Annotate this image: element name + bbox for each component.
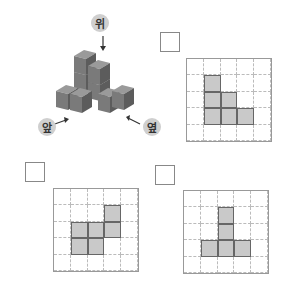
grid-cell xyxy=(71,205,88,221)
filled-cell xyxy=(88,238,105,254)
filled-cell xyxy=(237,108,254,124)
grid-cell xyxy=(254,108,271,124)
filled-cell xyxy=(218,207,235,223)
grid-cell xyxy=(234,207,251,223)
grid-cell xyxy=(237,125,254,141)
grid-cell xyxy=(104,238,121,254)
grid-cell xyxy=(187,75,204,91)
grid-cell xyxy=(187,125,204,141)
grid-cell xyxy=(88,205,105,221)
grid-cell xyxy=(184,224,201,240)
grid-cell xyxy=(201,207,218,223)
side-view-label: 옆 xyxy=(143,118,161,136)
grid-cell xyxy=(184,240,201,256)
filled-cell xyxy=(71,238,88,254)
grid-cell xyxy=(204,59,221,75)
grid-bottom-left xyxy=(53,188,139,272)
grid-cell xyxy=(187,92,204,108)
filled-cell xyxy=(221,92,238,108)
filled-cell xyxy=(218,224,235,240)
grid-cell xyxy=(187,108,204,124)
grid-cell xyxy=(184,191,201,207)
grid-cell xyxy=(104,189,121,205)
grid-cell xyxy=(88,255,105,271)
grid-cell xyxy=(254,125,271,141)
grid-cell xyxy=(54,189,71,205)
top-view-label: 위 xyxy=(91,14,109,32)
grid-cell xyxy=(221,59,238,75)
grid-cell xyxy=(218,257,235,273)
grid-cell xyxy=(254,75,271,91)
grid-cell xyxy=(54,255,71,271)
grid-cell xyxy=(121,189,138,205)
grid-bottom-right xyxy=(183,190,269,274)
grid-cell xyxy=(254,59,271,75)
grid-cell xyxy=(88,189,105,205)
grid-cell xyxy=(121,205,138,221)
grid-cell xyxy=(201,224,218,240)
grid-cell xyxy=(237,59,254,75)
grid-cell xyxy=(251,257,268,273)
grid-cell xyxy=(184,207,201,223)
grid-cell xyxy=(251,207,268,223)
filled-cell xyxy=(204,75,221,91)
front-view-label: 앞 xyxy=(38,118,56,136)
filled-cell xyxy=(204,108,221,124)
answer-box-bottom-left[interactable] xyxy=(25,162,45,182)
grid-cell xyxy=(237,75,254,91)
grid-cell xyxy=(54,238,71,254)
filled-cell xyxy=(104,222,121,238)
filled-cell xyxy=(218,240,235,256)
filled-cell xyxy=(104,205,121,221)
grid-cell xyxy=(54,222,71,238)
filled-cell xyxy=(221,108,238,124)
grid-cell xyxy=(201,257,218,273)
grid-cell xyxy=(54,205,71,221)
filled-cell xyxy=(201,240,218,256)
grid-cell xyxy=(121,222,138,238)
grid-cell xyxy=(121,238,138,254)
grid-cell xyxy=(221,125,238,141)
grid-cell xyxy=(234,224,251,240)
grid-cell xyxy=(237,92,254,108)
filled-cell xyxy=(234,240,251,256)
filled-cell xyxy=(204,92,221,108)
grid-cell xyxy=(234,191,251,207)
grid-cell xyxy=(187,59,204,75)
grid-cell xyxy=(218,191,235,207)
answer-box-top-right[interactable] xyxy=(160,32,180,52)
grid-cell xyxy=(234,257,251,273)
grid-cell xyxy=(251,240,268,256)
grid-cell xyxy=(121,255,138,271)
grid-cell xyxy=(71,189,88,205)
grid-cell xyxy=(71,255,88,271)
filled-cell xyxy=(88,222,105,238)
grid-top-right xyxy=(186,58,272,142)
grid-cell xyxy=(104,255,121,271)
grid-cell xyxy=(251,224,268,240)
grid-cell xyxy=(251,191,268,207)
grid-cell xyxy=(204,125,221,141)
grid-cell xyxy=(221,75,238,91)
grid-cell xyxy=(184,257,201,273)
filled-cell xyxy=(71,222,88,238)
grid-cell xyxy=(201,191,218,207)
answer-box-bottom-right[interactable] xyxy=(155,165,175,185)
grid-cell xyxy=(254,92,271,108)
